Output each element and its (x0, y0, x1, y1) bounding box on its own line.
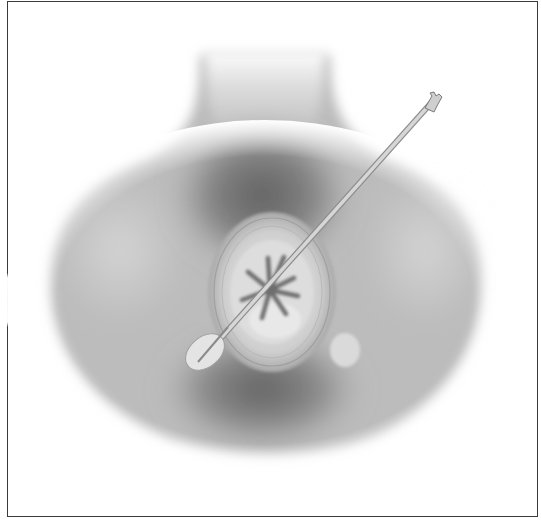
right-bulge (330, 333, 360, 367)
medical-illustration (0, 0, 541, 525)
instrument-tip (425, 92, 442, 112)
